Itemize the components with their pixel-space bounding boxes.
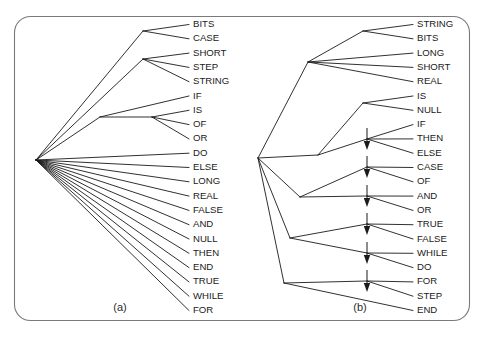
leaf-label-for-1: FOR [417, 275, 437, 286]
leaf-label-or-0: OR [193, 132, 207, 143]
leaf-label-of-1: OF [417, 175, 430, 186]
leaf-label-and-0: AND [193, 218, 213, 229]
leaf-label-true-1: TRUE [417, 218, 443, 229]
leaf-label-null-1: NULL [417, 104, 442, 115]
leaf-label-do-0: DO [193, 147, 207, 158]
leaf-label-long-1: LONG [417, 47, 444, 58]
leaf-label-while-1: WHILE [417, 247, 447, 258]
leaf-label-if-1: IF [417, 118, 426, 129]
leaf-label-of-0: OF [193, 118, 206, 129]
leaf-label-case-0: CASE [193, 32, 219, 43]
leaf-label-long-0: LONG [193, 175, 220, 186]
leaf-label-string-1: STRING [417, 18, 453, 29]
leaf-label-false-1: FALSE [417, 233, 447, 244]
leaf-label-and-1: AND [417, 190, 437, 201]
leaf-label-else-0: ELSE [193, 161, 218, 172]
figure-frame [15, 17, 470, 321]
leaf-label-false-0: FALSE [193, 204, 223, 215]
dendrogram-figure: BITSCASESHORTSTEPSTRINGIFISOFORDOELSELON… [0, 0, 484, 338]
leaf-label-then-0: THEN [193, 247, 219, 258]
leaf-label-is-1: IS [417, 90, 426, 101]
panel-b-caption: (b) [353, 301, 366, 313]
leaf-label-while-0: WHILE [193, 290, 223, 301]
figure-container: BITSCASESHORTSTEPSTRINGIFISOFORDOELSELON… [0, 0, 484, 338]
leaf-label-step-1: STEP [417, 290, 442, 301]
leaf-label-bits-1: BITS [417, 32, 438, 43]
leaf-label-is-0: IS [193, 104, 202, 115]
panel-a-caption: (a) [113, 301, 126, 313]
edge-b-leaf [367, 167, 413, 168]
leaf-label-if-0: IF [193, 90, 202, 101]
leaf-label-step-0: STEP [193, 61, 218, 72]
leaf-label-do-1: DO [417, 261, 431, 272]
leaf-label-case-1: CASE [417, 161, 443, 172]
leaf-label-real-1: REAL [417, 75, 443, 86]
leaf-label-end-0: END [193, 261, 213, 272]
leaf-label-or-1: OR [417, 204, 431, 215]
leaf-label-short-0: SHORT [193, 47, 227, 58]
leaf-label-else-1: ELSE [417, 147, 442, 158]
leaf-label-then-1: THEN [417, 132, 443, 143]
leaf-label-real-0: REAL [193, 190, 219, 201]
leaf-label-for-0: FOR [193, 304, 213, 315]
leaf-label-string-0: STRING [193, 75, 229, 86]
leaf-label-true-0: TRUE [193, 275, 219, 286]
leaf-label-bits-0: BITS [193, 18, 214, 29]
leaf-label-null-0: NULL [193, 233, 218, 244]
leaf-label-short-1: SHORT [417, 61, 451, 72]
leaf-label-end-1: END [417, 304, 437, 315]
page-bleed-text [0, 0, 484, 9]
